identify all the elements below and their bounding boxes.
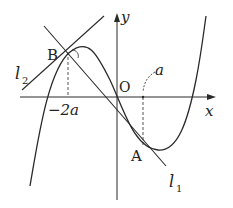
tick-a-marker (142, 96, 144, 98)
tick-label-neg-2a: −2a (48, 101, 79, 119)
x-axis-arrow-icon (207, 94, 216, 100)
line-l2 (22, 16, 104, 90)
function-graph: y x O B A −2a a l 2 l 1 (0, 0, 233, 208)
tick-label-a: a (155, 61, 164, 79)
angle-arc-b (72, 50, 78, 58)
y-axis (114, 13, 120, 200)
line-l2-label: l 2 (15, 64, 28, 86)
origin-label: O (119, 79, 130, 95)
x-axis-label: x (205, 102, 214, 120)
svg-text:l: l (169, 172, 174, 191)
svg-text:2: 2 (22, 75, 28, 86)
y-axis-label: y (120, 8, 130, 26)
y-axis-arrow-icon (114, 13, 120, 22)
leader-a (143, 72, 155, 92)
svg-text:1: 1 (176, 183, 182, 194)
line-l1 (44, 26, 166, 166)
svg-text:l: l (15, 64, 20, 83)
point-a-label: A (130, 147, 142, 165)
line-l1-label: l 1 (169, 172, 182, 194)
point-b-label: B (47, 46, 58, 64)
